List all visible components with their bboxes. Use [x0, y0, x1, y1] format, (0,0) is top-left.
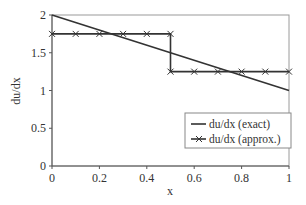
x-tick-label: 0.8	[234, 171, 249, 185]
y-tick-label: 1.5	[31, 46, 46, 60]
x-tick-label: 1	[286, 171, 292, 185]
y-tick-label: 0.5	[31, 121, 46, 135]
legend-label-exact: du/dx (exact)	[209, 118, 270, 131]
x-tick-label: 0	[49, 171, 55, 185]
chart: 00.511.52 00.20.40.60.81 x du/dx du/dx (…	[0, 0, 306, 205]
x-tick-label: 0.4	[139, 171, 154, 185]
x-tick-label: 0.2	[92, 171, 107, 185]
legend: du/dx (exact) du/dx (approx.)	[185, 113, 291, 148]
x-axis-label: x	[167, 184, 173, 198]
y-tick-label: 1	[40, 84, 46, 98]
series-line-approx	[52, 34, 289, 72]
y-axis-label: du/dx	[9, 77, 23, 104]
y-tick-label: 0	[40, 159, 46, 173]
legend-label-approx: du/dx (approx.)	[209, 133, 281, 146]
x-tick-label: 0.6	[187, 171, 202, 185]
y-tick-label: 2	[40, 8, 46, 22]
